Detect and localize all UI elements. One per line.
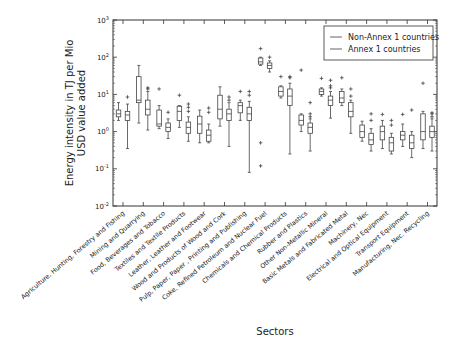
x-axis-ticks: Agriculture, Hunting, Forestry and Fishi… xyxy=(19,20,430,304)
box xyxy=(177,93,182,127)
legend-box xyxy=(324,26,433,60)
y-axis-title-line: USD value added xyxy=(76,70,87,156)
box xyxy=(299,68,304,131)
box xyxy=(308,101,313,151)
y-tick-label: 100 xyxy=(97,126,109,136)
y-axis-title: Energy intensity in TJ per MioUSD value … xyxy=(64,40,87,187)
box xyxy=(328,78,333,118)
box xyxy=(340,76,345,106)
box xyxy=(186,102,191,141)
box xyxy=(380,113,385,149)
box xyxy=(125,95,130,148)
box xyxy=(430,111,435,151)
box xyxy=(369,112,374,151)
y-tick-label: 101 xyxy=(97,89,109,99)
box xyxy=(319,77,324,97)
box xyxy=(258,47,263,168)
y-axis-title-line: Energy intensity in TJ per Mio xyxy=(64,40,75,187)
box xyxy=(137,65,142,123)
box xyxy=(227,95,232,146)
box xyxy=(360,121,365,141)
y-tick-label: 103 xyxy=(97,15,109,25)
box xyxy=(389,119,394,154)
box xyxy=(218,87,223,126)
box xyxy=(238,90,243,121)
box xyxy=(279,75,284,98)
box xyxy=(116,103,121,121)
box xyxy=(400,113,405,147)
y-tick-label: 102 xyxy=(97,52,109,62)
box xyxy=(267,55,272,72)
box xyxy=(421,81,426,148)
box xyxy=(166,111,171,139)
box xyxy=(247,90,252,173)
legend-entry: Non-Annex 1 countries xyxy=(348,33,439,42)
box xyxy=(349,87,354,133)
box xyxy=(197,110,202,143)
y-tick-label: 10-2 xyxy=(95,201,109,211)
box xyxy=(157,87,162,128)
box xyxy=(409,108,414,157)
box-plot-series xyxy=(116,47,434,173)
box-plot-chart: Energy intensity in TJ per MioUSD value … xyxy=(0,0,455,348)
legend-entry: Annex 1 countries xyxy=(348,45,420,54)
x-axis-title: Sectors xyxy=(256,326,293,337)
box xyxy=(288,75,293,154)
legend: Non-Annex 1 countriesAnnex 1 countries xyxy=(324,26,439,60)
series-annex-1 xyxy=(125,55,434,172)
box xyxy=(206,106,211,143)
y-tick-label: 10-1 xyxy=(95,163,109,173)
box xyxy=(146,86,151,130)
